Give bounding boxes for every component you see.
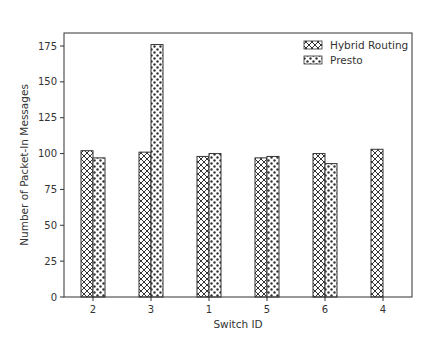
bar-hybrid-routing: [255, 158, 267, 297]
y-tick-label: 100: [38, 148, 57, 159]
bar-chart: 0255075100125150175 231564 Switch ID Num…: [0, 0, 431, 345]
bar-hybrid-routing: [197, 156, 209, 297]
legend-label: Presto: [330, 54, 363, 66]
bar-presto: [267, 156, 279, 297]
legend: Hybrid RoutingPresto: [304, 39, 408, 66]
legend-swatch: [304, 41, 322, 49]
y-tick-label: 175: [38, 41, 57, 52]
y-tick-label: 50: [44, 220, 57, 231]
bar-presto: [209, 154, 221, 297]
y-axis-label: Number of Packet-In Messages: [18, 84, 30, 246]
bar-hybrid-routing: [139, 152, 151, 297]
y-tick-label: 150: [38, 76, 57, 87]
x-tick-label: 3: [148, 304, 154, 315]
x-tick-label: 2: [90, 304, 96, 315]
legend-swatch: [304, 56, 322, 64]
bar-presto: [151, 45, 163, 297]
x-axis: 231564: [90, 297, 386, 315]
y-tick-label: 0: [51, 292, 57, 303]
bar-presto: [93, 158, 105, 297]
legend-label: Hybrid Routing: [330, 39, 408, 51]
bar-hybrid-routing: [81, 151, 93, 297]
bar-hybrid-routing: [313, 154, 325, 297]
x-axis-label: Switch ID: [213, 318, 262, 330]
x-tick-label: 1: [206, 304, 212, 315]
x-tick-label: 5: [264, 304, 270, 315]
bar-hybrid-routing: [371, 149, 383, 297]
bar-presto: [325, 164, 337, 297]
y-tick-label: 75: [44, 184, 57, 195]
plot-frame: [64, 33, 412, 297]
x-tick-label: 6: [322, 304, 328, 315]
plot-area: [81, 45, 383, 297]
y-tick-label: 125: [38, 112, 57, 123]
y-tick-label: 25: [44, 256, 57, 267]
x-tick-label: 4: [380, 304, 386, 315]
y-axis: 0255075100125150175: [38, 41, 64, 303]
